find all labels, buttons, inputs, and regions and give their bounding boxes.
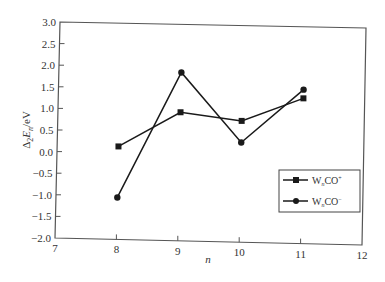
line-chart: 3.02.52.01.51.00.50.0−0.5−1.0−1.5−2.0 78…	[0, 0, 385, 282]
y-tick-label: −1.5	[32, 210, 52, 222]
y-tick-label: 3.0	[42, 16, 56, 28]
x-tick-label: 7	[52, 242, 58, 254]
square-marker-icon	[293, 177, 299, 183]
circle-marker-icon	[293, 198, 299, 204]
y-tick-label: 2.5	[42, 38, 56, 50]
y-tick-label: 0.0	[39, 146, 53, 158]
y-tick-label: 0.5	[40, 124, 54, 136]
series-wnco-minus	[114, 69, 307, 200]
legend: WnCO+ WnCO−	[279, 170, 360, 212]
y-tick-label: −0.5	[33, 167, 53, 179]
y-axis-title: Δ2En/eV	[20, 111, 35, 149]
data-point	[115, 143, 121, 149]
svg-text:WnCO−: WnCO−	[312, 196, 342, 208]
data-point	[300, 86, 306, 92]
data-point	[300, 95, 306, 101]
x-tick-label: 10	[234, 246, 246, 258]
data-point	[238, 139, 244, 145]
data-point	[178, 109, 184, 115]
svg-text:WnCO+: WnCO+	[312, 175, 342, 187]
x-tick-label: 9	[175, 245, 181, 257]
x-axis-title: n	[205, 253, 211, 265]
data-point	[114, 194, 120, 200]
y-tick-label: −1.0	[32, 189, 52, 201]
y-tick-label: 1.0	[40, 102, 54, 114]
series-wnco-plus	[115, 95, 306, 149]
y-tick-label: 2.0	[41, 59, 55, 71]
x-tick-label: 8	[114, 243, 120, 255]
y-tick-label: −2.0	[31, 232, 51, 244]
x-tick-label: 11	[295, 248, 306, 260]
data-point	[239, 118, 245, 124]
data-series	[114, 69, 307, 200]
x-tick-label: 12	[357, 249, 368, 261]
data-point	[178, 69, 184, 75]
y-tick-label: 1.5	[41, 81, 55, 93]
